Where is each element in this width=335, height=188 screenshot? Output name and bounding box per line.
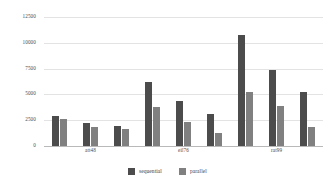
y-axis-tick-label: 7500 (25, 66, 36, 71)
bar-sequential (83, 123, 91, 146)
bar-parallel (308, 127, 316, 146)
y-axis-tick-label: 10000 (23, 40, 36, 45)
y-axis-tick-label: 5000 (25, 92, 36, 97)
bar-parallel (153, 107, 161, 146)
bar-parallel (215, 133, 223, 146)
bar-sequential (176, 101, 184, 146)
bar-sequential (269, 70, 277, 146)
bar-parallel (246, 92, 254, 146)
bar-sequential (207, 114, 215, 147)
x-axis-tick-label: eil76 (178, 148, 189, 153)
y-axis-tick-label: 2500 (25, 118, 36, 123)
x-axis: att48eil76rat99 (44, 148, 323, 160)
bar-parallel (91, 127, 99, 146)
legend-swatch-icon (128, 168, 135, 175)
legend-label: parallel (190, 169, 207, 174)
bar-sequential (300, 92, 308, 146)
legend-item[interactable]: sequential (128, 168, 162, 175)
bar-sequential (52, 116, 60, 146)
y-axis-tick-label: 12500 (23, 14, 36, 19)
bar-sequential (238, 35, 246, 146)
bar-sequential (114, 126, 122, 146)
legend-swatch-icon (179, 168, 186, 175)
x-axis-tick-label: rat99 (271, 148, 282, 153)
bar-parallel (184, 122, 192, 146)
bar-parallel (277, 106, 285, 146)
y-axis-tick-label: 0 (33, 143, 36, 148)
legend-item[interactable]: parallel (179, 168, 207, 175)
bar-sequential (145, 82, 153, 147)
bar-parallel (122, 129, 130, 146)
bar-chart: 02500500075001000012500 att48eil76rat99 … (0, 0, 335, 188)
chart-legend: sequentialparallel (0, 168, 335, 175)
x-axis-tick-label: att48 (85, 148, 96, 153)
legend-label: sequential (139, 169, 162, 174)
bar-parallel (60, 119, 68, 146)
y-axis: 02500500075001000012500 (0, 17, 40, 146)
bars-layer (44, 17, 323, 146)
